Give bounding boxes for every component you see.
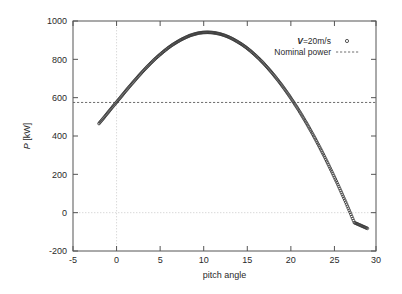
- y-tick-label: 600: [52, 93, 67, 103]
- x-tick-label: 30: [371, 255, 381, 265]
- x-tick-label: 0: [114, 255, 119, 265]
- legend-entry-0-label: V=20m/s: [297, 36, 331, 46]
- y-axis-title: P [kW]: [22, 123, 32, 150]
- y-tick-label: 400: [52, 131, 67, 141]
- x-tick-label: 5: [158, 255, 163, 265]
- chart-legend: V=20m/s Nominal power: [274, 36, 360, 57]
- legend-entry-1-label: Nominal power: [274, 47, 331, 57]
- legend-marker-point-icon: [345, 39, 348, 42]
- x-tick-label: -5: [69, 255, 77, 265]
- data-series-v20: [98, 31, 369, 230]
- y-tick-label: 0: [62, 208, 67, 218]
- x-tick-label: 20: [286, 255, 296, 265]
- x-tick-label: 25: [329, 255, 339, 265]
- y-axis-title-unit: [kW]: [22, 123, 32, 141]
- x-tick-label: 15: [242, 255, 252, 265]
- x-tick-labels: -5 0 5 10 15 20 25 30: [69, 255, 381, 265]
- y-tick-label: -200: [49, 246, 67, 256]
- y-tick-labels: -200 0 200 400 600 800 1000: [47, 16, 67, 256]
- chart-plot-area: -5 0 5 10 15 20 25 30 -200 0 200 400 600…: [0, 0, 402, 294]
- legend-entry-0-rest: =20m/s: [303, 36, 331, 46]
- x-tick-label: 10: [199, 255, 209, 265]
- y-tick-label: 200: [52, 170, 67, 180]
- y-tick-label: 800: [52, 55, 67, 65]
- x-axis-title: pitch angle: [203, 270, 247, 280]
- y-tick-label: 1000: [47, 16, 67, 26]
- chart-figure: -5 0 5 10 15 20 25 30 -200 0 200 400 600…: [0, 0, 402, 294]
